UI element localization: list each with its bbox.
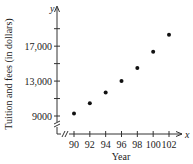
data-point [104, 90, 108, 94]
y-tick-label: 17,000 [25, 41, 53, 52]
x-tick-label: 96 [117, 139, 127, 150]
x-tick-label: 92 [85, 139, 95, 150]
x-tick-label: 90 [69, 139, 79, 150]
x-tick-label: 98 [132, 139, 142, 150]
x-axis-title: Year [112, 151, 131, 162]
data-point [72, 111, 76, 115]
y-tick-label: 9000 [32, 111, 52, 122]
data-point [167, 33, 171, 37]
data-points [72, 33, 171, 116]
y-axis-title: Tuition and fees (in dollars) [3, 18, 15, 129]
y-axis-letter: y [49, 3, 55, 14]
x-tick-label: 94 [101, 139, 111, 150]
axes [54, 6, 182, 137]
data-point [135, 66, 139, 70]
y-axis-ticks: 900013,00017,000 [25, 29, 61, 122]
x-axis-break-icon [62, 131, 68, 137]
x-tick-label: 102 [162, 139, 177, 150]
x-axis-letter: x [184, 129, 190, 140]
data-point [88, 101, 92, 105]
data-point [120, 79, 124, 83]
y-tick-label: 13,000 [25, 76, 53, 87]
scatter-chart: 900013,00017,000 9092949698100102 Tuitio… [0, 0, 193, 164]
data-point [151, 50, 155, 54]
x-tick-label: 100 [146, 139, 161, 150]
